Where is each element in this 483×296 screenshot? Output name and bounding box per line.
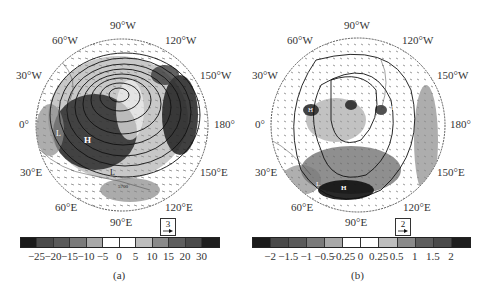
colorbar-a <box>20 237 220 248</box>
colorbar-swatch <box>87 238 103 247</box>
colorbar-tick: 10 <box>147 251 158 262</box>
colorbar-tick: −5 <box>97 251 109 262</box>
colorbar-swatch <box>169 238 185 247</box>
label-lon-120w: 120°W <box>165 35 196 46</box>
colorbar-tick: −15 <box>61 251 78 262</box>
label-lon-90w: 90°W <box>344 20 370 31</box>
label-lon-180: 180° <box>214 119 235 130</box>
colorbar-tick: 0.5 <box>390 251 404 262</box>
colorbar-tick: 30 <box>196 251 207 262</box>
label-lon-150w: 150°W <box>200 70 231 81</box>
label-lon-90e: 90°E <box>110 217 132 228</box>
label-lon-120e: 120°E <box>403 202 431 213</box>
colorbar-swatch <box>434 238 452 247</box>
colorbar-tick: 0.25 <box>369 251 388 262</box>
colorbar-swatch <box>21 238 37 247</box>
colorbar-swatch <box>103 238 119 247</box>
svg-text:H: H <box>308 106 313 114</box>
panel-b: H H L L 90°W 60°W 120°W 30°W 150°W 0° 18… <box>241 0 482 296</box>
colorbar-tick: 1.5 <box>426 251 440 262</box>
label-lon-90e: 90°E <box>345 217 367 228</box>
colorbar-tick: −1.5 <box>278 251 298 262</box>
colorbar-swatch <box>153 238 169 247</box>
arrow-right-icon <box>163 229 173 233</box>
label-lon-150e: 150°E <box>437 167 465 178</box>
colorbar-tick: 0 <box>116 251 122 262</box>
colorbar-swatch <box>361 238 379 247</box>
label-lon-60e: 60°E <box>55 202 77 213</box>
label-lon-150w: 150°W <box>437 70 468 81</box>
label-lon-90w: 90°W <box>110 20 136 31</box>
svg-text:L: L <box>110 168 115 177</box>
colorbar-swatch <box>379 238 397 247</box>
polar-map-b: H H L L <box>241 0 482 235</box>
colorbar-swatch <box>416 238 434 247</box>
label-lon-120w: 120°W <box>402 35 433 46</box>
arrow-right-icon <box>398 229 408 233</box>
label-lon-30w: 30°W <box>252 70 278 81</box>
label-lon-60w: 60°W <box>287 35 313 46</box>
colorbar-tick: 5 <box>133 251 139 262</box>
colorbar-tick: 20 <box>179 251 190 262</box>
colorbar-swatch <box>325 238 343 247</box>
label-lon-30w: 30°W <box>16 70 42 81</box>
colorbar-swatch <box>202 238 219 247</box>
colorbar-swatch <box>271 238 289 247</box>
colorbar-tick: −20 <box>44 251 61 262</box>
label-lon-0: 0° <box>255 119 265 130</box>
colorbar-tick: 2 <box>448 251 454 262</box>
colorbar-swatch <box>343 238 361 247</box>
colorbar-tick: −10 <box>77 251 94 262</box>
label-lon-150e: 150°E <box>200 167 228 178</box>
label-lon-0: 0° <box>19 119 29 130</box>
polar-map-a: H H L L 5700 <box>0 0 241 235</box>
label-lon-30e: 30°E <box>255 167 277 178</box>
svg-text:H: H <box>341 184 347 192</box>
colorbar-tick: 0 <box>358 251 364 262</box>
label-lon-60e: 60°E <box>291 202 313 213</box>
vector-scale-legend: 2 <box>395 218 411 236</box>
svg-text:L: L <box>56 129 61 138</box>
colorbar-swatch <box>253 238 271 247</box>
colorbar-tick: −2 <box>264 251 276 262</box>
colorbar-swatch <box>54 238 70 247</box>
colorbar-swatch <box>307 238 325 247</box>
colorbar-swatch <box>37 238 53 247</box>
vector-scale-value: 2 <box>396 220 410 229</box>
colorbar-swatch <box>289 238 307 247</box>
panel-caption-b: (b) <box>351 270 364 281</box>
label-lon-60w: 60°W <box>52 35 78 46</box>
panel-caption-a: (a) <box>113 270 125 281</box>
colorbar-swatch <box>120 238 136 247</box>
svg-text:L: L <box>391 104 395 112</box>
colorbar-tick: −0.25 <box>330 251 355 262</box>
colorbar-swatch <box>452 238 470 247</box>
colorbar-swatch <box>70 238 86 247</box>
colorbar-b <box>252 237 471 248</box>
vector-scale-value: 3 <box>161 220 175 229</box>
colorbar-swatch <box>186 238 202 247</box>
colorbar-tick: 15 <box>163 251 174 262</box>
svg-text:L: L <box>316 180 320 188</box>
colorbar-swatch <box>398 238 416 247</box>
svg-text:H: H <box>84 135 91 145</box>
colorbar-tick: −1 <box>300 251 312 262</box>
colorbar-swatch <box>136 238 152 247</box>
panel-a: H H L L 5700 90°W 60°W 120°W 30°W 150°W … <box>0 0 241 296</box>
svg-text:5700: 5700 <box>118 184 129 189</box>
colorbar-tick: −25 <box>28 251 45 262</box>
map-label-h: H <box>54 52 61 62</box>
colorbar-tick: 1 <box>412 251 418 262</box>
label-lon-30e: 30°E <box>20 167 42 178</box>
label-lon-180: 180° <box>450 119 471 130</box>
label-lon-120e: 120°E <box>165 202 193 213</box>
vector-scale-legend: 3 <box>160 218 176 236</box>
